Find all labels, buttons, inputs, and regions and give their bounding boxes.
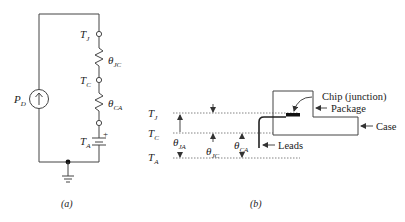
panel-b-labels: TJ TC TA θJA θJC θCA Chip (junction) Pac… (148, 91, 397, 210)
node-tj (96, 31, 101, 36)
leads-label: Leads (278, 140, 303, 151)
svg-text:TJ: TJ (80, 28, 90, 43)
node-ta (96, 120, 101, 125)
panel-a-circuit (30, 14, 107, 182)
battery-ta (92, 138, 106, 145)
panel-a-labels: TJ θJC TC θCA TA + PD (a) (13, 28, 123, 210)
resistor-theta-jc (95, 48, 103, 66)
svg-text:θJC: θJC (108, 54, 122, 69)
svg-text:θCA: θCA (234, 139, 249, 154)
node-tc (96, 77, 101, 82)
chip-callout-arrow (294, 97, 312, 111)
wire-top (39, 14, 99, 31)
svg-text:θCA: θCA (108, 97, 123, 112)
package-label: Package (331, 103, 366, 114)
svg-text:TC: TC (148, 127, 159, 142)
svg-text:TJ: TJ (148, 107, 158, 122)
svg-text:θJA: θJA (173, 136, 187, 151)
svg-text:PD: PD (13, 93, 26, 108)
battery-plus-sign: + (103, 129, 108, 139)
caption-a: (a) (61, 198, 73, 210)
chip-junction-label: Chip (junction) (322, 91, 387, 103)
ground-icon (62, 162, 74, 182)
resistor-theta-ca (95, 93, 103, 111)
caption-b: (b) (250, 198, 262, 210)
svg-text:TA: TA (80, 135, 91, 150)
chip-junction (286, 113, 300, 117)
wire-left-bottom (39, 108, 99, 162)
case-label: Case (376, 121, 397, 132)
svg-text:TA: TA (148, 151, 159, 166)
svg-text:TC: TC (80, 74, 91, 89)
svg-text:θJC: θJC (206, 145, 220, 160)
thermal-diagram: TJ θJC TC θCA TA + PD (a) (0, 0, 405, 222)
